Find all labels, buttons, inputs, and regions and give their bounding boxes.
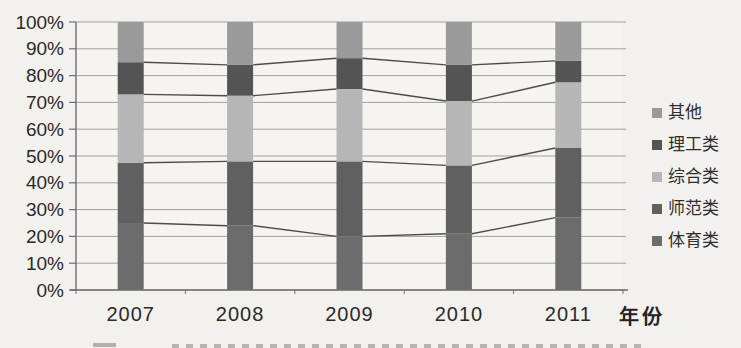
bar-segment-其他-2009 (337, 22, 363, 58)
truncated-caption-strip (172, 344, 648, 348)
y-tick-label-30: 30% (26, 199, 64, 220)
bar-segment-体育类-2011 (555, 218, 581, 290)
bar-segment-其他-2010 (446, 22, 472, 65)
y-tick-label-20: 20% (26, 226, 64, 247)
legend-swatch-综合类 (652, 172, 662, 182)
bar-segment-师范类-2010 (446, 165, 472, 233)
legend-label-其他: 其他 (668, 103, 702, 123)
truncated-caption-fragment (93, 343, 116, 347)
x-category-label-2008: 2008 (216, 303, 265, 325)
y-tick-label-80: 80% (26, 65, 64, 86)
bar-segment-理工类-2010 (446, 65, 472, 101)
legend-swatch-其他 (652, 108, 662, 118)
bar-segment-综合类-2011 (555, 82, 581, 148)
bar-segment-综合类-2008 (227, 96, 253, 162)
bar-segment-理工类-2008 (227, 65, 253, 96)
bar-segment-其他-2008 (227, 22, 253, 65)
bar-segment-师范类-2008 (227, 161, 253, 225)
y-tick-label-50: 50% (26, 146, 64, 167)
legend-item-理工类: 理工类 (652, 135, 719, 155)
bar-segment-理工类-2011 (555, 61, 581, 82)
chart-legend: 其他理工类综合类师范类体育类 (652, 103, 719, 251)
legend-label-师范类: 师范类 (668, 199, 719, 219)
y-tick-label-100: 100% (15, 12, 64, 33)
y-tick-label-70: 70% (26, 92, 64, 113)
bar-segment-理工类-2007 (118, 62, 144, 94)
y-tick-label-40: 40% (26, 172, 64, 193)
legend-label-综合类: 综合类 (668, 167, 719, 187)
legend-item-体育类: 体育类 (652, 231, 719, 251)
y-tick-label-90: 90% (26, 38, 64, 59)
bar-segment-综合类-2007 (118, 94, 144, 162)
legend-item-师范类: 师范类 (652, 199, 719, 219)
x-category-label-2007: 2007 (106, 303, 155, 325)
stacked-bar-chart: 0%10%20%30%40%50%60%70%80%90%100%2007200… (0, 0, 741, 348)
legend-swatch-体育类 (652, 236, 662, 246)
legend-item-其他: 其他 (652, 103, 719, 123)
y-tick-label-0: 0% (37, 280, 65, 301)
bar-segment-师范类-2007 (118, 163, 144, 223)
y-tick-label-10: 10% (26, 253, 64, 274)
bar-segment-体育类-2010 (446, 234, 472, 290)
bar-segment-体育类-2007 (118, 223, 144, 290)
bar-segment-师范类-2009 (337, 161, 363, 236)
bar-segment-理工类-2009 (337, 58, 363, 89)
x-category-label-2010: 2010 (435, 303, 484, 325)
bar-segment-其他-2011 (555, 22, 581, 61)
legend-swatch-师范类 (652, 204, 662, 214)
bar-segment-体育类-2009 (337, 236, 363, 290)
x-category-label-2009: 2009 (325, 303, 374, 325)
legend-swatch-理工类 (652, 140, 662, 150)
legend-label-体育类: 体育类 (668, 231, 719, 251)
bar-segment-其他-2007 (118, 22, 144, 62)
x-axis-title: 年份 (619, 301, 665, 330)
bar-segment-体育类-2008 (227, 226, 253, 290)
x-category-label-2011: 2011 (545, 303, 592, 325)
bar-segment-综合类-2009 (337, 89, 363, 161)
y-tick-label-60: 60% (26, 119, 64, 140)
bar-segment-师范类-2011 (555, 148, 581, 218)
bar-segment-综合类-2010 (446, 101, 472, 165)
figure: 0%10%20%30%40%50%60%70%80%90%100%2007200… (0, 0, 741, 348)
legend-label-理工类: 理工类 (668, 135, 719, 155)
legend-item-综合类: 综合类 (652, 167, 719, 187)
